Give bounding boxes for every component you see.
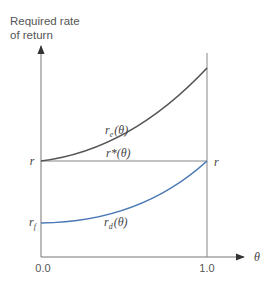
- right-r-label: r: [214, 155, 219, 169]
- x-tick-1: 1.0: [199, 262, 214, 274]
- chart: r r rf re(θ) r*(θ) rd(θ) 0.0 1.0 θ: [0, 0, 270, 291]
- re-label: re(θ): [105, 123, 128, 139]
- r-star-label: r*(θ): [106, 146, 131, 160]
- rd-label: rd(θ): [104, 215, 128, 231]
- x-tick-0: 0.0: [35, 262, 50, 274]
- left-r-label: r: [30, 154, 35, 168]
- x-axis-label: θ: [254, 250, 260, 264]
- rf-label: rf: [29, 215, 38, 231]
- r-d-curve: [41, 161, 207, 223]
